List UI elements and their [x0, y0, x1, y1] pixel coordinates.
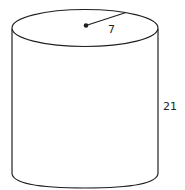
- cylinder-top-ellipse: [12, 10, 158, 47]
- radius-label: 7: [108, 23, 115, 36]
- cylinder-bottom-arc: [12, 173, 158, 188]
- height-label: 21: [163, 100, 177, 113]
- cylinder-diagram: 7 21: [0, 0, 185, 190]
- center-dot: [84, 23, 89, 28]
